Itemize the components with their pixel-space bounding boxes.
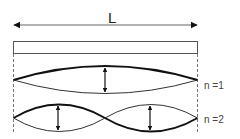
standing-wave-diagram: L n =1 n =2 xyxy=(0,0,240,139)
string-bar xyxy=(14,42,198,54)
length-label: L xyxy=(108,9,116,26)
mode-1-loop xyxy=(14,66,198,94)
mode-1-label: n =1 xyxy=(204,80,224,91)
mode-2-loops xyxy=(14,105,198,132)
mode-2-label: n =2 xyxy=(204,114,224,125)
